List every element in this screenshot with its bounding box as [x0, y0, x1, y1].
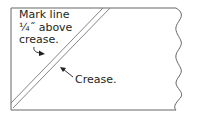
mark-line-label-line3: crease. [19, 34, 72, 47]
mark-line-label: Mark line ¼˝ above crease. [19, 9, 72, 47]
crease-label: Crease. [75, 74, 116, 87]
crease-arrow [63, 69, 73, 77]
mark-line-label-line1: Mark line [19, 9, 72, 22]
arrowhead-icon [39, 51, 45, 57]
